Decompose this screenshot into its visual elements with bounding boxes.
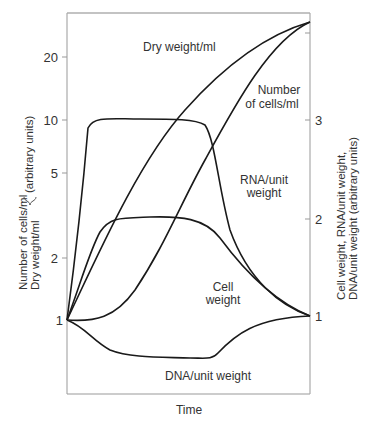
right-tick-2: 2 — [315, 212, 322, 227]
right-ylabel-line1: Cell weight, RNA/unit weight, — [335, 152, 347, 300]
curve-dry-weight — [67, 22, 310, 320]
label-dna: DNA/unit weight — [165, 369, 252, 383]
left-tick-5: 5 — [51, 166, 58, 181]
growth-chart: 20 10 5 2 1 3 2 1 Dry weight/ml Number o… — [0, 0, 370, 427]
left-tick-10: 10 — [44, 113, 58, 128]
left-tick-1: 1 — [56, 313, 63, 328]
plot-frame — [67, 13, 310, 394]
left-axis-ticks — [62, 57, 67, 258]
left-y-axis-label: Number of cells/ml Dry weight/ml (arbitr… — [17, 116, 41, 290]
label-cell-weight-line2: weight — [205, 293, 241, 307]
left-ylabel-note: (arbitrary units) — [23, 116, 35, 193]
left-tick-2: 2 — [51, 251, 58, 266]
right-ylabel-line2: DNA/unit weight (arbitrary units) — [347, 137, 359, 300]
label-cells-line2: of cells/ml — [245, 97, 298, 111]
curve-cell-weight — [67, 217, 310, 320]
left-ylabel-line2: Dry weight/ml — [29, 220, 41, 290]
label-cells-line1: Number — [258, 83, 301, 97]
right-axis-ticks — [305, 33, 310, 219]
left-ylabel-line1: Number of cells/ml — [17, 195, 29, 290]
curve-dna-per-unit-weight — [67, 316, 310, 358]
right-tick-1: 1 — [315, 309, 322, 324]
label-cell-weight-line1: Cell — [213, 280, 234, 294]
curve-number-of-cells — [67, 22, 310, 320]
right-y-axis-label: Cell weight, RNA/unit weight, DNA/unit w… — [335, 137, 359, 300]
x-axis-label: Time — [176, 403, 203, 417]
right-tick-3: 3 — [315, 113, 322, 128]
left-tick-20: 20 — [44, 50, 58, 65]
label-rna-line1: RNA/unit — [240, 173, 289, 187]
label-dry-weight: Dry weight/ml — [143, 40, 216, 54]
label-rna-line2: weight — [246, 186, 282, 200]
